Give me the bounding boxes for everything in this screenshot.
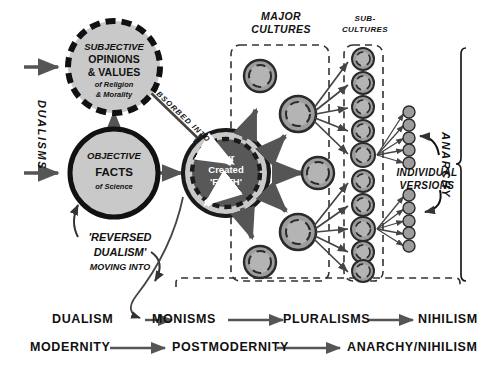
- individual-version-dot: [403, 106, 415, 118]
- faith-line-3: 'FAITH': [196, 176, 256, 188]
- bottom-row-item-modernity: MODERNITY: [30, 340, 110, 354]
- objective-line-1: OBJECTIVE: [69, 148, 159, 164]
- sub-cultures-header: SUB- CULTURES: [330, 14, 400, 35]
- major-culture-circle: [280, 96, 316, 132]
- individual-versions-arrows-upper: [377, 106, 439, 169]
- individual-versions-callout-lower: [425, 190, 441, 212]
- sub-culture-circle: [351, 217, 375, 241]
- sub-culture-circle: [352, 260, 374, 282]
- anarchy-bracket: [456, 48, 466, 281]
- major-culture-circle: [244, 246, 276, 278]
- dualisms-axis-label: DUALISMS: [36, 100, 48, 170]
- individual-versions-line-2: VERSIONS: [383, 179, 471, 192]
- diagram-canvas: DUALISMS ANARCHY SUBJECTIVE OPINIONS & V…: [0, 0, 500, 370]
- major-cultures-header: MAJOR CULTURES: [235, 10, 327, 35]
- sub-culture-circle: [352, 48, 374, 70]
- individual-version-dot: [403, 227, 415, 239]
- subjective-line-3: & VALUES: [69, 66, 159, 79]
- major-culture-circle: [302, 157, 334, 189]
- subjective-sub-2: & Morality: [69, 90, 159, 100]
- sub-culture-circle: [352, 120, 374, 142]
- subjective-sub-1: of Religion: [69, 80, 159, 90]
- individual-version-dot: [403, 132, 415, 144]
- sub-culture-circle: [351, 143, 375, 167]
- objective-line-2: FACTS: [69, 164, 159, 180]
- subjective-node-text: SUBJECTIVE OPINIONS & VALUES of Religion…: [69, 40, 159, 100]
- individual-versions-callout-upper: [420, 136, 439, 155]
- bottom-row-item-postmodernity: POSTMODERNITY: [172, 340, 289, 354]
- sub-cultures-line-2: CULTURES: [330, 25, 400, 36]
- bottom-row-item-monisms: MONISMS: [152, 312, 216, 326]
- reversed-dualism-line-1: 'REVERSED: [70, 230, 170, 245]
- individual-version-dot: [403, 144, 415, 156]
- faith-line-1: Our: [196, 152, 256, 164]
- faith-line-2: Created: [196, 164, 256, 176]
- faith-node-text: Our Created 'FAITH': [196, 152, 256, 188]
- bottom-row-item-dualism: DUALISM: [52, 312, 113, 326]
- bottom-row-item-pluralisms: PLURALISMS: [283, 312, 370, 326]
- individual-version-dot: [403, 202, 415, 214]
- individual-version-dot: [403, 215, 415, 227]
- bottom-row-item-anarchy-nihilism: ANARCHY/NIHILISM: [347, 340, 477, 354]
- outer-dashed-box: [176, 278, 460, 287]
- sub-cultures-line-1: SUB-: [330, 14, 400, 25]
- major-culture-circle: [244, 60, 276, 92]
- individual-versions-arrows-lower: [377, 189, 441, 252]
- objective-sub-1: of Science: [69, 180, 159, 193]
- individual-versions-label: INDIVIDUAL VERSIONS: [383, 166, 471, 192]
- reversed-dualism-line-2: DUALISM': [70, 245, 170, 260]
- individual-version-dot: [403, 240, 415, 252]
- sub-culture-circle: [352, 96, 374, 118]
- sub-culture-circle: [352, 170, 374, 192]
- sub-culture-circle: [352, 194, 374, 216]
- bottom-row-item-nihilism: NIHILISM: [418, 312, 478, 326]
- major-cultures-line-2: CULTURES: [235, 23, 327, 36]
- major-culture-circle: [280, 214, 316, 250]
- sub-culture-circle: [352, 72, 374, 94]
- individual-version-dot: [403, 119, 415, 131]
- major-cultures-line-1: MAJOR: [235, 10, 327, 23]
- individual-versions-line-1: INDIVIDUAL: [383, 166, 471, 179]
- reversed-dualism-label: 'REVERSED DUALISM' MOVING INTO: [70, 230, 170, 275]
- subjective-line-2: OPINIONS: [69, 53, 159, 66]
- reversed-dualism-line-3: MOVING INTO: [70, 260, 170, 275]
- major-to-sub-arrows-upper: [314, 62, 348, 154]
- objective-node-text: OBJECTIVE FACTS of Science: [69, 148, 159, 193]
- subjective-line-1: SUBJECTIVE: [69, 40, 159, 53]
- major-to-sub-arrows-lower: [314, 183, 348, 272]
